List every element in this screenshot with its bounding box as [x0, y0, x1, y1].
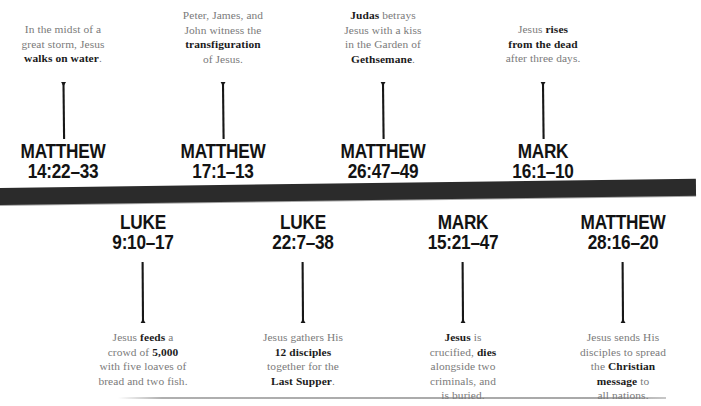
description-line: disciples to spread: [544, 345, 701, 360]
description-line: 12 disciples: [224, 345, 382, 360]
emphasis-text: Gethsemane: [351, 53, 412, 65]
up-arrow-icon: [50, 82, 76, 140]
description-line: great storm, Jesus: [0, 37, 142, 52]
body-text: crucified,: [430, 346, 477, 358]
body-text: Jesus with a kiss: [344, 24, 421, 36]
connector: [378, 261, 548, 323]
connector: [458, 82, 628, 140]
emphasis-text: dies: [477, 346, 496, 358]
scripture-reference: MATTHEW14:22–33: [0, 141, 136, 181]
up-arrow-icon: [530, 82, 556, 140]
event-description: Jesus feeds acrowd of 5,000with five loa…: [58, 330, 228, 388]
event-description: Peter, James, andJohn witness thetransfi…: [138, 8, 308, 66]
body-text: Jesus: [113, 331, 141, 343]
description-line: Jesus feeds a: [64, 330, 222, 345]
reference-block: MATTHEW28:16–20: [538, 212, 701, 252]
body-text: with five loaves of: [100, 360, 187, 372]
timeline-event-above: In the midst of agreat storm, Jesuswalks…: [0, 0, 148, 188]
description-line: from the dead: [464, 37, 622, 52]
description-line: transfiguration: [144, 37, 302, 52]
emphasis-text: 5,000: [152, 346, 178, 358]
emphasis-text: from the dead: [508, 38, 577, 50]
reference-book: LUKE: [230, 212, 376, 232]
emphasis-text: walks on water: [24, 52, 99, 64]
description-line: Jesus gathers His: [224, 330, 382, 345]
description-line: is buried.: [384, 388, 542, 403]
scripture-reference: MARK16:1–10: [470, 141, 616, 181]
connector: [138, 82, 308, 140]
description-block: In the midst of agreat storm, Jesuswalks…: [0, 22, 148, 66]
body-text: all nations.: [597, 389, 648, 401]
description-block: Judas betraysJesus with a kissin the Gar…: [298, 8, 468, 66]
reference-block: MARK15:21–47: [378, 212, 548, 252]
reference-verse: 9:10–17: [70, 232, 216, 252]
emphasis-text: Last Supper: [271, 375, 332, 387]
body-text: bread and two fish.: [98, 375, 187, 387]
reference-verse: 17:1–13: [150, 161, 296, 181]
body-text: in the Garden of: [345, 38, 421, 50]
body-text: Jesus gathers His: [263, 331, 343, 343]
description-block: Jesus sends Hisdisciples to spreadthe Ch…: [538, 330, 701, 403]
description-line: Jesus is: [384, 330, 542, 345]
body-text: great storm, Jesus: [21, 38, 104, 50]
body-text: criminals, and: [430, 375, 496, 387]
body-text: the: [591, 360, 608, 372]
body-text: alongside two: [431, 360, 496, 372]
scripture-reference: MARK15:21–47: [390, 212, 536, 252]
description-line: crowd of 5,000: [64, 345, 222, 360]
description-line: crucified, dies: [384, 345, 542, 360]
emphasis-text: Judas: [350, 9, 379, 21]
description-line: Jesus with a kiss: [304, 23, 462, 38]
description-block: Jesus feeds acrowd of 5,000with five loa…: [58, 330, 228, 388]
description-line: Jesus rises: [464, 22, 622, 37]
emphasis-text: transfiguration: [185, 38, 261, 50]
body-text: is: [471, 331, 482, 343]
down-arrow-icon: [130, 261, 156, 323]
description-line: of Jesus.: [144, 52, 302, 67]
description-line: together for the: [224, 359, 382, 374]
connector: [218, 261, 388, 323]
description-line: Judas betrays: [304, 8, 462, 23]
timeline-event-above: Peter, James, andJohn witness thetransfi…: [138, 0, 308, 188]
emphasis-text: feeds: [140, 331, 165, 343]
event-description: Jesus iscrucified, diesalongside twocrim…: [378, 330, 548, 403]
description-line: Jesus sends His: [544, 330, 701, 345]
event-description: Judas betraysJesus with a kissin the Gar…: [298, 8, 468, 66]
body-text: .: [99, 52, 102, 64]
scripture-reference: MATTHEW17:1–13: [150, 141, 296, 181]
timeline-event-above: Judas betraysJesus with a kissin the Gar…: [298, 0, 468, 188]
body-text: to: [637, 375, 649, 387]
reference-block: MATTHEW26:47–49: [298, 141, 468, 181]
scripture-reference: LUKE22:7–38: [230, 212, 376, 252]
timeline-event-below: MATTHEW28:16–20Jesus sends Hisdisciples …: [538, 208, 701, 406]
body-text: John witness the: [185, 24, 262, 36]
scripture-reference: MATTHEW26:47–49: [310, 141, 456, 181]
down-arrow-icon: [610, 261, 636, 323]
body-text: a: [165, 331, 173, 343]
reference-book: MARK: [390, 212, 536, 232]
reference-block: MATTHEW14:22–33: [0, 141, 148, 181]
body-text: is buried.: [441, 389, 484, 401]
reference-verse: 22:7–38: [230, 232, 376, 252]
body-text: together for the: [267, 360, 339, 372]
reference-block: LUKE22:7–38: [218, 212, 388, 252]
reference-block: MARK16:1–10: [458, 141, 628, 181]
description-line: alongside two: [384, 359, 542, 374]
scripture-reference: LUKE9:10–17: [70, 212, 216, 252]
description-line: criminals, and: [384, 374, 542, 389]
event-description: Jesus gathers His12 disciplestogether fo…: [218, 330, 388, 388]
reference-book: LUKE: [70, 212, 216, 232]
timeline-event-below: MARK15:21–47Jesus iscrucified, diesalong…: [378, 208, 548, 406]
scripture-reference: MATTHEW28:16–20: [550, 212, 696, 252]
body-text: of Jesus.: [203, 53, 243, 65]
connector: [538, 261, 701, 323]
description-line: Gethsemane.: [304, 52, 462, 67]
description-block: Jesus gathers His12 disciplestogether fo…: [218, 330, 388, 388]
body-text: Peter, James, and: [183, 9, 263, 21]
reference-book: MATTHEW: [150, 141, 296, 161]
emphasis-text: Jesus: [444, 331, 470, 343]
description-line: bread and two fish.: [64, 374, 222, 389]
body-text: .: [332, 375, 335, 387]
connector: [298, 82, 468, 140]
